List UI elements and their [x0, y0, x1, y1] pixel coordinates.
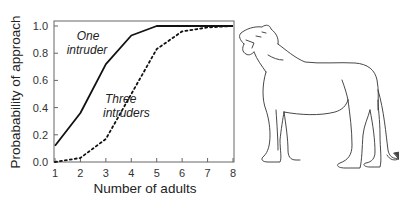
x-tick-label: 4 [128, 167, 134, 179]
x-tick-label: 7 [205, 167, 211, 179]
y-tick-label: 0.4 [33, 102, 48, 114]
y-tick-label: 0.8 [33, 47, 48, 59]
x-tick-label: 5 [154, 167, 160, 179]
annotation-one-intruder-line2: intruder [67, 43, 109, 57]
annotation-three-intruders-line1: Three [105, 92, 137, 106]
x-tick-label: 6 [179, 167, 185, 179]
x-axis: 12345678 [52, 158, 236, 179]
chart-figure: 0.00.20.40.60.81.0 12345678 One intruder… [0, 0, 399, 203]
y-tick-label: 1.0 [33, 20, 48, 32]
lioness-illustration-icon [240, 25, 399, 168]
x-tick-label: 3 [103, 167, 109, 179]
y-tick-label: 0.0 [33, 156, 48, 168]
annotation-three-intruders-line2: intruders [103, 106, 150, 120]
x-tick-label: 8 [230, 167, 236, 179]
y-tick-label: 0.6 [33, 74, 48, 86]
x-tick-label: 2 [77, 167, 83, 179]
x-tick-label: 1 [52, 167, 58, 179]
x-axis-title: Number of adults [94, 181, 197, 196]
y-axis-title: Probabability of approach [8, 15, 23, 168]
y-tick-label: 0.2 [33, 129, 48, 141]
annotation-one-intruder-line1: One [77, 29, 100, 43]
